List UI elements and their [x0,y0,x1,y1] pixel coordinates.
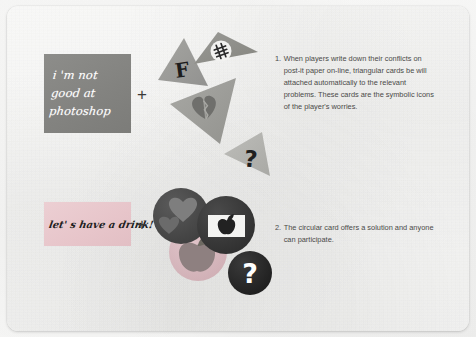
circle-card-question: ? [228,251,272,295]
caption-1-number: 1. [275,53,284,113]
plus-operator-1: + [137,86,147,103]
caption-1-text: When players write down their conflicts … [284,53,440,113]
presentation-page: i 'm not good at photoshop + [7,6,469,331]
question-mark-icon: ? [243,145,259,172]
caption-item-1: 1. When players write down their conflic… [275,53,440,113]
triangle-card-money [194,32,258,64]
caption-2-number: 2. [275,222,284,246]
triangle-card-broken-heart [170,78,236,144]
circle-cards-group: ? [150,184,276,296]
panel-drink: let' s have a drink! [44,202,131,246]
plus-operator-2: + [137,216,147,233]
caption-2-text: The circular card offers a solution and … [284,222,440,246]
panel-photoshop: i 'm not good at photoshop [44,54,131,133]
triangle-cards-group: F [150,28,276,176]
panel-photoshop-text: i 'm not good at photoshop [41,67,134,120]
triangle-card-question: ? [224,132,270,176]
caption-item-2: 2. The circular card offers a solution a… [275,222,440,246]
slide-canvas: i 'm not good at photoshop + [0,0,476,337]
circle-card-apple [197,196,255,254]
question-mark-icon: ? [242,258,258,289]
